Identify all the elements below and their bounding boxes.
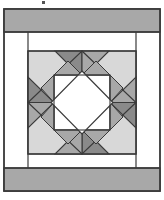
- top-border-band: [4, 9, 160, 32]
- quilt-block-figure: [0, 0, 164, 200]
- bottom-border-band: [4, 168, 160, 191]
- quilt-block-drawing: [0, 0, 164, 200]
- stray-speck-mark: [42, 1, 45, 4]
